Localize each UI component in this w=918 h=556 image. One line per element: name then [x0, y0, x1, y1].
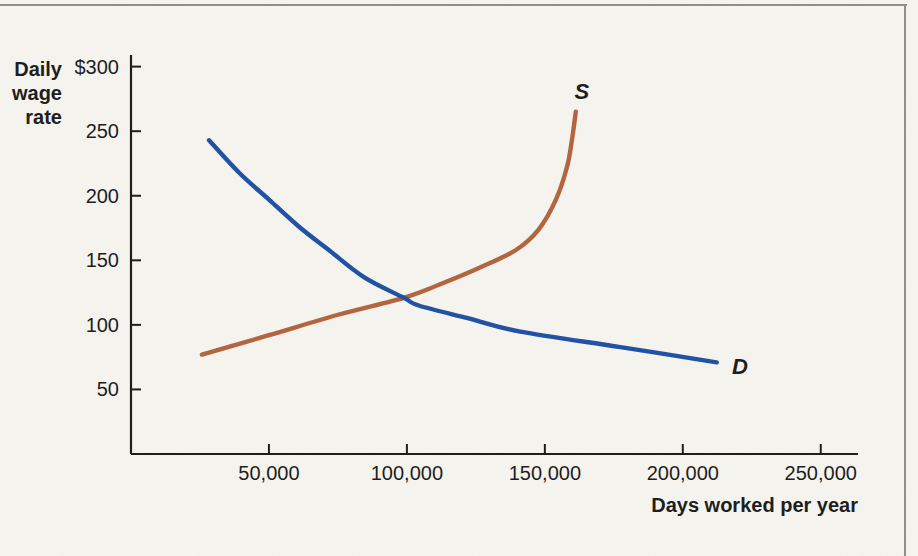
y-axis-tick-label: 150	[86, 249, 119, 271]
x-axis-tick-label: 250,000	[785, 462, 857, 484]
y-axis-tick-label: 50	[97, 378, 119, 400]
y-axis-tick-label: 100	[86, 314, 119, 336]
y-axis-tick-label: 250	[86, 120, 119, 142]
y-axis-tick-label: 200	[86, 185, 119, 207]
x-axis-tick-label: 100,000	[371, 462, 443, 484]
y-axis-tick-label: $300	[75, 56, 120, 78]
curve-label-supply: S	[574, 79, 589, 104]
x-axis-tick-label: 150,000	[509, 462, 581, 484]
y-axis-title-line3: rate	[25, 106, 62, 128]
y-axis-title-line1: Daily	[14, 58, 63, 80]
y-axis-title-line2: wage	[11, 82, 62, 104]
x-axis-tick-label: 200,000	[647, 462, 719, 484]
x-axis-title: Days worked per year	[651, 494, 858, 516]
curve-label-demand: D	[732, 354, 748, 379]
supply-demand-chart: Daily wage rate Days worked per year $30…	[0, 0, 918, 556]
x-axis-tick-label: 50,000	[238, 462, 299, 484]
scanned-textbook-figure: Daily wage rate Days worked per year $30…	[0, 0, 918, 556]
